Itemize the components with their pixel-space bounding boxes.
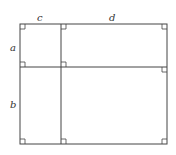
right-angle-icon (162, 24, 167, 29)
right-angle-icon (162, 67, 167, 72)
label-a: a (10, 43, 16, 53)
label-d: d (109, 13, 115, 23)
rectangle-diagram (0, 0, 176, 155)
outer-rectangle (20, 24, 167, 144)
right-angle-icon (61, 24, 66, 29)
right-angle-icon (20, 139, 25, 144)
label-c: c (37, 13, 43, 23)
right-angle-icon (61, 139, 66, 144)
right-angle-icon (162, 139, 167, 144)
right-angle-marks (20, 24, 167, 144)
label-b: b (10, 100, 16, 110)
right-angle-icon (20, 62, 25, 67)
right-angle-icon (61, 62, 66, 67)
right-angle-icon (20, 24, 25, 29)
